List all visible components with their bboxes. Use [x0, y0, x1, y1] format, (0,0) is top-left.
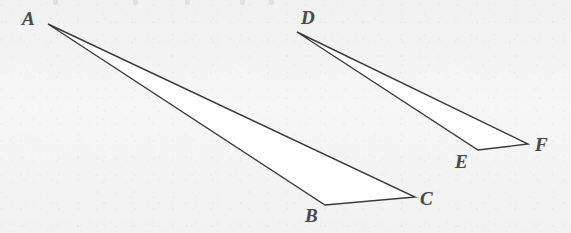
geometry-figure	[0, 0, 571, 233]
triangle-abc-shape	[48, 24, 415, 205]
descender-2	[133, 0, 138, 5]
vertex-label-a: A	[22, 9, 35, 28]
vertex-label-f: F	[535, 135, 548, 154]
triangle-def-shape	[297, 32, 528, 150]
descender-5	[269, 0, 274, 5]
figure-canvas: ABCDEF	[0, 0, 571, 233]
vertex-label-b: B	[305, 206, 318, 225]
descender-3	[185, 0, 190, 5]
vertex-label-d: D	[301, 8, 315, 27]
vertex-label-c: C	[420, 189, 433, 208]
descender-4	[240, 0, 245, 5]
vertex-label-e: E	[455, 152, 468, 171]
descender-1	[53, 0, 58, 5]
